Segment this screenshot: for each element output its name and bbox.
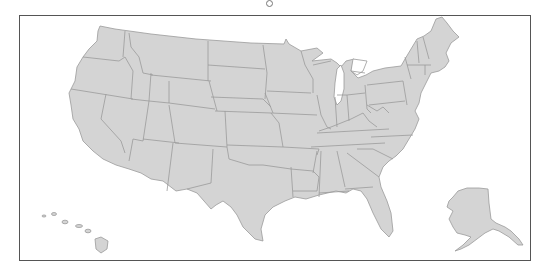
- rotate-handle-icon[interactable]: [266, 0, 273, 7]
- map-frame[interactable]: [19, 15, 531, 261]
- hawaii: [42, 213, 108, 254]
- alaska: [447, 188, 523, 251]
- us-states-map: [20, 16, 532, 262]
